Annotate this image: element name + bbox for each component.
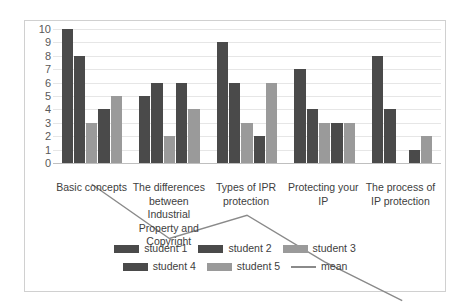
- y-axis-tick: 0: [27, 158, 51, 169]
- chart-legend: student 1student 2student 3student 4stud…: [25, 243, 445, 272]
- legend-label: student 4: [153, 261, 196, 272]
- y-axis-tick: 6: [27, 77, 51, 88]
- legend-row: student 1student 2student 3: [114, 243, 356, 254]
- legend-color-swatch-icon: [207, 263, 232, 271]
- legend-row: student 4student 5mean: [123, 261, 348, 272]
- legend-item[interactable]: student 3: [283, 243, 356, 254]
- legend-color-swatch-icon: [114, 245, 139, 253]
- legend-color-swatch-icon: [283, 245, 308, 253]
- x-axis-labels: Basic conceptsThe differences between In…: [53, 181, 439, 249]
- y-axis-tick: 7: [27, 64, 51, 75]
- x-axis-label: The process of IP protection: [362, 181, 439, 249]
- chart-container: 109876543210 Basic conceptsThe differenc…: [24, 20, 446, 292]
- x-axis-label: Basic concepts: [53, 181, 130, 249]
- legend-line-swatch-icon: [291, 266, 316, 268]
- x-axis-label: Protecting your IP: [285, 181, 362, 249]
- x-axis-label: Types of IPR protection: [207, 181, 284, 249]
- y-axis-tick: 4: [27, 104, 51, 115]
- plot-wrapper: 109876543210: [25, 21, 447, 173]
- y-axis-tick: 5: [27, 91, 51, 102]
- legend-label: student 3: [313, 243, 356, 254]
- y-axis-tick: 1: [27, 144, 51, 155]
- y-axis-tick: 9: [27, 37, 51, 48]
- x-axis-label: The differences between Industrial Prope…: [130, 181, 207, 249]
- legend-label: mean: [321, 261, 347, 272]
- legend-item[interactable]: student 5: [207, 261, 280, 272]
- y-axis-tick: 2: [27, 131, 51, 142]
- legend-item[interactable]: student 2: [198, 243, 271, 254]
- legend-label: student 2: [228, 243, 271, 254]
- legend-item[interactable]: mean: [291, 261, 347, 272]
- legend-color-swatch-icon: [198, 245, 223, 253]
- legend-item[interactable]: student 1: [114, 243, 187, 254]
- legend-color-swatch-icon: [123, 263, 148, 271]
- legend-label: student 5: [237, 261, 280, 272]
- legend-item[interactable]: student 4: [123, 261, 196, 272]
- y-axis: 109876543210: [27, 29, 51, 163]
- y-axis-tick: 10: [27, 24, 51, 35]
- plot-area: [53, 29, 441, 163]
- legend-label: student 1: [144, 243, 187, 254]
- y-axis-tick: 3: [27, 117, 51, 128]
- y-axis-tick: 8: [27, 50, 51, 61]
